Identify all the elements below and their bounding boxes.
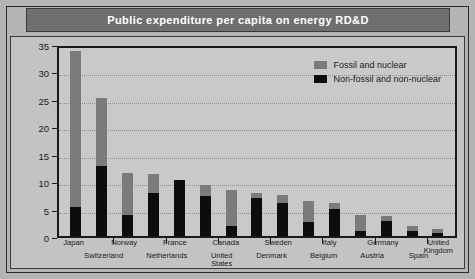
bar-segment-non-fossil-non-nuclear bbox=[355, 231, 366, 236]
bar-segment-fossil-nuclear bbox=[148, 174, 159, 193]
bar-segment-fossil-nuclear bbox=[96, 98, 107, 166]
stacked-bar bbox=[70, 48, 81, 236]
bar-segment-non-fossil-non-nuclear bbox=[251, 198, 262, 236]
stacked-bar bbox=[381, 48, 392, 236]
x-axis-label-spacer bbox=[233, 252, 256, 265]
bar-slot bbox=[115, 48, 141, 236]
stacked-bar bbox=[174, 48, 185, 236]
stacked-bar bbox=[355, 48, 366, 236]
stacked-bar bbox=[303, 48, 314, 236]
x-axis-labels: JapanNorwayFranceCanadaSwedenItalyGerman… bbox=[57, 238, 457, 268]
bar-segment-non-fossil-non-nuclear bbox=[277, 203, 288, 236]
bar-segment-non-fossil-non-nuclear bbox=[329, 209, 340, 236]
x-axis-label-spacer bbox=[287, 252, 310, 265]
x-axis-tick-label: Austria bbox=[360, 252, 384, 265]
bar-segment-non-fossil-non-nuclear bbox=[226, 226, 237, 236]
x-axis-label-spacer bbox=[123, 252, 146, 265]
bar-segment-non-fossil-non-nuclear bbox=[303, 222, 314, 236]
bar-slot bbox=[347, 48, 373, 236]
bar-segment-non-fossil-non-nuclear bbox=[432, 233, 443, 236]
x-axis-tick-label: Belgium bbox=[310, 252, 337, 265]
bar-slot bbox=[373, 48, 399, 236]
bar-segment-non-fossil-non-nuclear bbox=[200, 196, 211, 236]
chart-screenshot: Public expenditure per capita on energy … bbox=[0, 0, 475, 279]
bar-slot bbox=[296, 48, 322, 236]
y-axis-tick-label: 35 bbox=[19, 41, 49, 52]
x-axis-label-row-bottom: SwitzerlandNetherlandsUnitedStatesDenmar… bbox=[57, 252, 457, 265]
x-axis-label-spacer bbox=[61, 252, 84, 265]
bar-segment-fossil-nuclear bbox=[303, 201, 314, 222]
y-axis-tick-label: 10 bbox=[19, 178, 49, 189]
bar-segment-fossil-nuclear bbox=[70, 51, 81, 207]
bar-slot bbox=[192, 48, 218, 236]
bar-segment-non-fossil-non-nuclear bbox=[148, 193, 159, 236]
bar-segment-non-fossil-non-nuclear bbox=[174, 180, 185, 236]
bar-segment-fossil-nuclear bbox=[277, 195, 288, 203]
stacked-bar bbox=[329, 48, 340, 236]
y-axis-tick-label: 30 bbox=[19, 68, 49, 79]
stacked-bar bbox=[251, 48, 262, 236]
stacked-bar bbox=[432, 48, 443, 236]
stacked-bar bbox=[277, 48, 288, 236]
stacked-bar bbox=[122, 48, 133, 236]
bar-slot bbox=[218, 48, 244, 236]
stacked-bar bbox=[148, 48, 159, 236]
bar-segment-fossil-nuclear bbox=[226, 190, 237, 225]
bar-segment-fossil-nuclear bbox=[122, 173, 133, 214]
bar-slot bbox=[322, 48, 348, 236]
x-axis-label-spacer bbox=[337, 252, 360, 265]
x-axis-tick-label: Netherlands bbox=[146, 252, 187, 265]
plot-area: Fossil and nuclear Non-fossil and non-nu… bbox=[57, 46, 457, 238]
bar-slot bbox=[425, 48, 451, 236]
y-axis-tick-label: 0 bbox=[19, 233, 49, 244]
x-axis-tick-label: Switzerland bbox=[84, 252, 123, 265]
y-axis-tick-label: 25 bbox=[19, 95, 49, 106]
stacked-bar bbox=[407, 48, 418, 236]
chart-title-bar: Public expenditure per capita on energy … bbox=[26, 8, 450, 32]
page-title: Public expenditure per capita on energy … bbox=[107, 14, 369, 26]
stacked-bar bbox=[96, 48, 107, 236]
x-axis-tick-label: Denmark bbox=[256, 252, 287, 265]
bar-segment-non-fossil-non-nuclear bbox=[122, 215, 133, 236]
x-axis-label-spacer bbox=[430, 252, 453, 265]
y-axis-tick-label: 5 bbox=[19, 205, 49, 216]
bar-slot bbox=[89, 48, 115, 236]
stacked-bar bbox=[226, 48, 237, 236]
bar-segment-non-fossil-non-nuclear bbox=[381, 221, 392, 236]
bar-slot bbox=[141, 48, 167, 236]
y-axis-tick-marks bbox=[49, 46, 57, 238]
bar-slot bbox=[166, 48, 192, 236]
stacked-bar bbox=[200, 48, 211, 236]
x-axis-tick-label: Spain bbox=[407, 252, 430, 265]
chart-panel: 05101520253035 U.S. dollars per capita F… bbox=[10, 36, 465, 269]
x-axis-tick-label: UnitedKingdom bbox=[424, 239, 453, 252]
x-axis-label-spacer bbox=[187, 239, 212, 252]
y-axis-tick-labels: 05101520253035 bbox=[13, 46, 49, 238]
bar-slot bbox=[244, 48, 270, 236]
bar-segment-non-fossil-non-nuclear bbox=[407, 231, 418, 236]
bar-series-container bbox=[59, 48, 455, 236]
bar-segment-non-fossil-non-nuclear bbox=[70, 207, 81, 236]
y-axis-tick-label: 15 bbox=[19, 150, 49, 161]
x-axis-label-spacer bbox=[187, 252, 210, 265]
bar-segment-fossil-nuclear bbox=[355, 215, 366, 231]
x-axis-label-spacer bbox=[384, 252, 407, 265]
bar-segment-fossil-nuclear bbox=[200, 185, 211, 196]
y-axis-tick-label: 20 bbox=[19, 123, 49, 134]
bar-segment-non-fossil-non-nuclear bbox=[96, 166, 107, 236]
bar-slot bbox=[63, 48, 89, 236]
x-axis-tick-label: Japan bbox=[61, 239, 86, 252]
x-axis-tick-label: UnitedStates bbox=[210, 252, 233, 265]
bar-slot bbox=[270, 48, 296, 236]
bar-slot bbox=[399, 48, 425, 236]
